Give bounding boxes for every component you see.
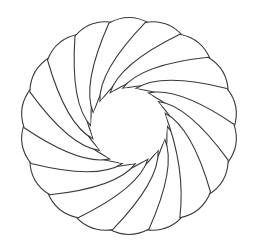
spiral-rosette-figure: [0, 0, 257, 245]
center-circle: [91, 88, 167, 164]
rosette-petals: [22, 18, 237, 235]
